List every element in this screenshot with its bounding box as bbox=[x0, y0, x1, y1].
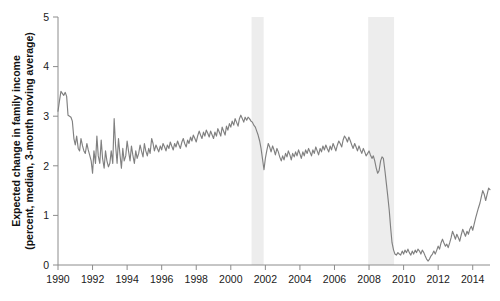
y-axis-title-line-2: (percent, median, 3-month moving average… bbox=[23, 32, 35, 250]
y-tick-label: 4 bbox=[43, 60, 49, 72]
x-tick-label: 2000 bbox=[219, 273, 243, 285]
series-line bbox=[58, 91, 490, 261]
x-tick-label: 2010 bbox=[392, 273, 416, 285]
y-tick-labels-group: 012345 bbox=[43, 11, 49, 271]
x-tick-label: 2002 bbox=[254, 273, 278, 285]
data-series-group bbox=[58, 91, 490, 261]
x-tick-label: 2006 bbox=[323, 273, 347, 285]
y-axis-title-line-1: Expected change in family income bbox=[10, 55, 22, 227]
chart-figure: 012345 199019921994199619982000200220042… bbox=[0, 0, 500, 301]
chart-canvas: 012345 199019921994199619982000200220042… bbox=[0, 0, 500, 301]
x-tick-label: 1992 bbox=[81, 273, 105, 285]
y-tick-label: 3 bbox=[43, 110, 49, 122]
y-tick-label: 5 bbox=[43, 11, 49, 23]
axes-group bbox=[58, 17, 490, 265]
y-tick-label: 2 bbox=[43, 160, 49, 172]
y-tick-label: 0 bbox=[43, 259, 49, 271]
x-tick-label: 2004 bbox=[288, 273, 312, 285]
recession-bands-group bbox=[252, 17, 395, 265]
x-tick-label: 1990 bbox=[46, 273, 70, 285]
x-tick-label: 2014 bbox=[461, 273, 485, 285]
recession-band-2001 bbox=[252, 17, 264, 265]
x-tick-label: 2012 bbox=[426, 273, 450, 285]
x-tick-label: 1998 bbox=[185, 273, 209, 285]
x-tick-labels-group: 1990199219941996199820002002200420062008… bbox=[46, 273, 484, 285]
x-tick-label: 2008 bbox=[357, 273, 381, 285]
x-tick-label: 1996 bbox=[150, 273, 174, 285]
y-tick-label: 1 bbox=[43, 209, 49, 221]
x-tick-label: 1994 bbox=[115, 273, 139, 285]
y-axis-title-group: Expected change in family income(percent… bbox=[10, 32, 35, 250]
